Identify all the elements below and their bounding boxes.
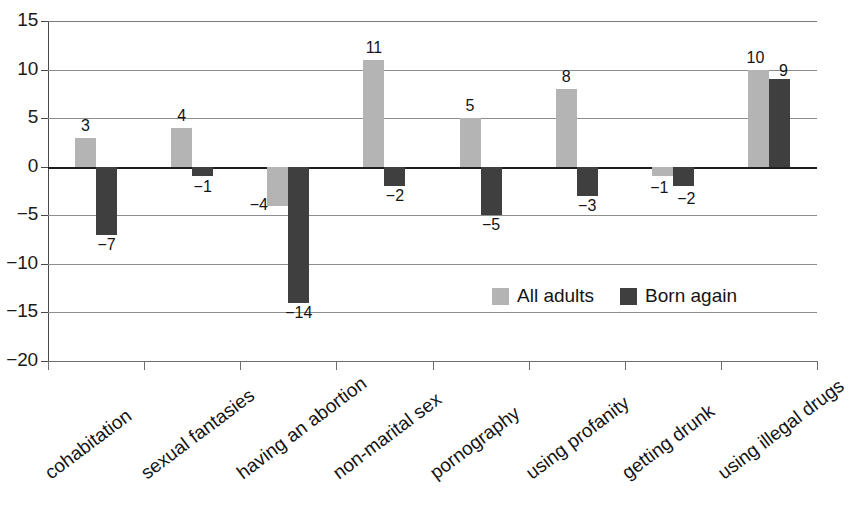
bar-value-label: 9 [763, 62, 803, 80]
gridline-neg15 [48, 312, 817, 313]
legend-item-all-adults[interactable]: All adults [492, 285, 594, 307]
x-tick-mark [144, 361, 145, 370]
category-label-cohabitation: cohabitation [41, 405, 136, 484]
bar-using-illegal-drugs-all-adults [748, 70, 769, 167]
bar-non-marital-sex-born-again [384, 167, 405, 186]
bar-value-label: −1 [183, 178, 223, 196]
bar-value-label: 11 [354, 39, 394, 57]
x-tick-mark [625, 361, 626, 370]
bar-pornography-all-adults [460, 118, 481, 167]
bar-cohabitation-born-again [96, 167, 117, 235]
gridline-neg10 [48, 264, 817, 265]
y-tick-mark [41, 264, 48, 265]
gridline-0 [48, 167, 817, 169]
x-tick-mark [817, 361, 818, 370]
y-tick-mark [41, 167, 48, 168]
bar-value-label: 8 [546, 68, 586, 86]
bar-value-label: −5 [471, 216, 511, 234]
y-tick-label: −5 [17, 203, 38, 225]
x-tick-mark [721, 361, 722, 370]
category-label-getting-drunk: getting drunk [618, 400, 719, 484]
category-label-using-illegal-drugs: using illegal drugs [714, 375, 848, 484]
y-tick-mark [41, 70, 48, 71]
bar-sexual-fantasies-born-again [192, 167, 213, 177]
legend-swatch-icon-born-again [620, 288, 637, 305]
bar-sexual-fantasies-all-adults [171, 128, 192, 167]
gridline-15 [48, 21, 817, 22]
bar-non-marital-sex-all-adults [363, 60, 384, 167]
gridline-10 [48, 70, 817, 71]
bar-value-label: −4 [239, 196, 279, 214]
bar-cohabitation-all-adults [75, 138, 96, 167]
x-tick-mark [240, 361, 241, 370]
y-tick-label: 10 [17, 58, 38, 80]
legend-label-born-again: Born again [645, 285, 737, 307]
bar-using-profanity-all-adults [556, 89, 577, 167]
bar-value-label: −7 [87, 236, 127, 254]
plot-area: 3−74−1−4−1411−25−58−3−1−2109 [48, 21, 817, 361]
bar-using-profanity-born-again [577, 167, 598, 196]
y-tick-mark [41, 361, 48, 362]
y-tick-mark [41, 312, 48, 313]
bar-value-label: −14 [279, 304, 319, 322]
x-tick-mark [529, 361, 530, 370]
bar-value-label: 5 [450, 97, 490, 115]
y-tick-label: −20 [6, 349, 38, 371]
y-tick-mark [41, 21, 48, 22]
y-tick-label: 0 [28, 155, 38, 177]
category-label-pornography: pornography [425, 402, 523, 484]
bar-value-label: −2 [375, 187, 415, 205]
bar-using-illegal-drugs-born-again [769, 79, 790, 166]
x-tick-mark [336, 361, 337, 370]
legend-item-born-again[interactable]: Born again [620, 285, 737, 307]
y-axis-line [48, 21, 49, 361]
category-label-using-profanity: using profanity [521, 392, 633, 484]
legend-swatch-icon-all-adults [492, 288, 509, 305]
y-tick-label: 15 [17, 9, 38, 31]
y-tick-label: −15 [6, 300, 38, 322]
y-tick-mark [41, 118, 48, 119]
bar-getting-drunk-all-adults [652, 167, 673, 177]
bar-having-an-abortion-born-again [288, 167, 309, 303]
y-tick-label: 5 [28, 106, 38, 128]
y-tick-mark [41, 215, 48, 216]
x-tick-mark [433, 361, 434, 370]
legend: All adults Born again [488, 283, 741, 309]
bar-value-label: 4 [162, 107, 202, 125]
bar-pornography-born-again [481, 167, 502, 216]
bar-value-label: 3 [66, 117, 106, 135]
bar-value-label: −3 [567, 197, 607, 215]
gridline-neg5 [48, 215, 817, 216]
bar-getting-drunk-born-again [673, 167, 694, 186]
bar-value-label: −2 [666, 190, 706, 208]
x-tick-mark [48, 361, 49, 370]
legend-label-all-adults: All adults [517, 285, 594, 307]
y-tick-label: −10 [6, 252, 38, 274]
